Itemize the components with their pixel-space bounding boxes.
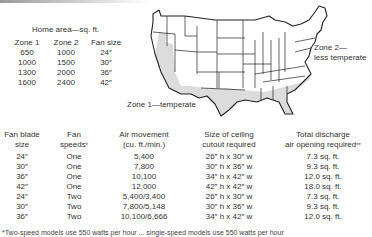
header-fan-blade-size: Fan blade (0, 130, 44, 140)
cell: 24″ (86, 48, 126, 58)
cell: Two (44, 212, 104, 222)
cell: 12.0 sq. ft. (274, 172, 372, 182)
cell: 30″ (0, 162, 44, 172)
cell: 7,800 (104, 162, 184, 172)
table-row: 36″ Two 10,100/6,666 34″ h x 42″ w 12.0 … (0, 212, 372, 222)
fan-table-header-row2: size speeds* (cu. ft./min.) cutout requi… (0, 140, 372, 152)
header-line2: speeds* (44, 140, 104, 152)
fan-table-header-row1: Fan blade Fan Air movement Size of ceili… (0, 130, 372, 140)
cell: 7.3 sq. ft. (274, 152, 372, 162)
table-row: 30″ Two 7,800/5,148 30″ h x 36″ w 9.3 sq… (0, 202, 372, 212)
cell: 1500 (46, 58, 86, 68)
cell: 10,100 (104, 172, 184, 182)
cell: Two (44, 192, 104, 202)
cell: 30″ (0, 202, 44, 212)
table-row: 36″ One 10,100 34″ h x 42″ w 12.0 sq. ft… (0, 172, 372, 182)
cell: 26″ h x 30″ w (184, 152, 274, 162)
table-row: 650 1000 24″ (8, 48, 126, 58)
header-ceiling-cutout: Size of ceiling (184, 130, 274, 140)
cell: 42″ (0, 182, 44, 192)
cell: 34″ h x 42″ w (184, 172, 274, 182)
footnote: *Two-speed models use 550 watts per hour… (2, 229, 284, 236)
cell: 30″ h x 36″ w (184, 202, 274, 212)
header-fan-speeds: Fan (44, 130, 104, 140)
header-zone2: Zone 2 (46, 38, 86, 48)
cell: One (44, 182, 104, 192)
cell: 2400 (46, 78, 86, 88)
cell: Two (44, 202, 104, 212)
table-row: 1000 1500 30″ (8, 58, 126, 68)
cell: One (44, 172, 104, 182)
cell: 5,400/3,400 (104, 192, 184, 202)
header-air-movement: Air movement (104, 130, 184, 140)
header-discharge-opening: Total discharge (274, 130, 372, 140)
cell: 36″ (86, 68, 126, 78)
cell: 36″ (0, 212, 44, 222)
header-text: speeds (60, 140, 86, 149)
cell: 26″ h x 30″ w (184, 192, 274, 202)
header-text: size (15, 140, 29, 149)
cell: 1300 (8, 68, 46, 78)
header-fan-size: Fan size (86, 38, 126, 48)
header-text: cutout required (202, 140, 255, 149)
cell: 9.3 sq. ft. (274, 162, 372, 172)
cell: 42″ (86, 78, 126, 88)
cell: 1600 (8, 78, 46, 88)
header-line2: cutout required (184, 140, 274, 152)
cell: 650 (8, 48, 46, 58)
header-text: air opening required (285, 140, 356, 149)
cell: 5,400 (104, 152, 184, 162)
table-row: 30″ One 7,800 30″ h x 36″ w 9.3 sq. ft. (0, 162, 372, 172)
cell: 24″ (0, 192, 44, 202)
top-edge-shadow (0, 0, 150, 3)
table-row: 42″ One 12,000 42″ h x 42″ w 18.0 sq. ft… (0, 182, 372, 192)
cell: 36″ (0, 172, 44, 182)
footnote-mark: ** (356, 142, 361, 148)
cell: 42″ h x 42″ w (184, 182, 274, 192)
cell: 18.0 sq. ft. (274, 182, 372, 192)
cell: One (44, 152, 104, 162)
header-line2: (cu. ft./min.) (104, 140, 184, 152)
home-area-header-row: Zone 1 Zone 2 Fan size (8, 38, 126, 48)
cell: 34″ h x 42″ w (184, 212, 274, 222)
footnote-mark: * (86, 142, 88, 148)
table-row: 1300 2000 36″ (8, 68, 126, 78)
cell: 1000 (8, 58, 46, 68)
zone2-label-line2: less temperate (314, 53, 366, 63)
cell: 9.3 sq. ft. (274, 202, 372, 212)
header-line2: size (0, 140, 44, 152)
cell: 12,000 (104, 182, 184, 192)
fan-specs-table: Fan blade Fan Air movement Size of ceili… (0, 130, 372, 222)
home-area-table: Zone 1 Zone 2 Fan size 650 1000 24″ 1000… (8, 38, 126, 88)
header-text: (cu. ft./min.) (123, 140, 165, 149)
cell: 30″ (86, 58, 126, 68)
cell: 2000 (46, 68, 86, 78)
header-zone1: Zone 1 (8, 38, 46, 48)
cell: 10,100/6,666 (104, 212, 184, 222)
cell: 30″ h x 36″ w (184, 162, 274, 172)
header-line2: air opening required** (274, 140, 372, 152)
cell: 24″ (0, 152, 44, 162)
zone2-label-line1: Zone 2— (314, 43, 366, 53)
zone1-label: Zone 1—temperate (127, 100, 196, 109)
cell: 7,800/5,148 (104, 202, 184, 212)
cell: 1000 (46, 48, 86, 58)
zone2-label: Zone 2— less temperate (314, 43, 366, 63)
cell: One (44, 162, 104, 172)
home-area-title: Home area—sq. ft. (32, 25, 99, 34)
cell: 7.3 sq. ft. (274, 192, 372, 202)
cell: 12.0 sq. ft. (274, 212, 372, 222)
table-row: 1600 2400 42″ (8, 78, 126, 88)
table-row: 24″ One 5,400 26″ h x 30″ w 7.3 sq. ft. (0, 152, 372, 162)
table-row: 24″ Two 5,400/3,400 26″ h x 30″ w 7.3 sq… (0, 192, 372, 202)
